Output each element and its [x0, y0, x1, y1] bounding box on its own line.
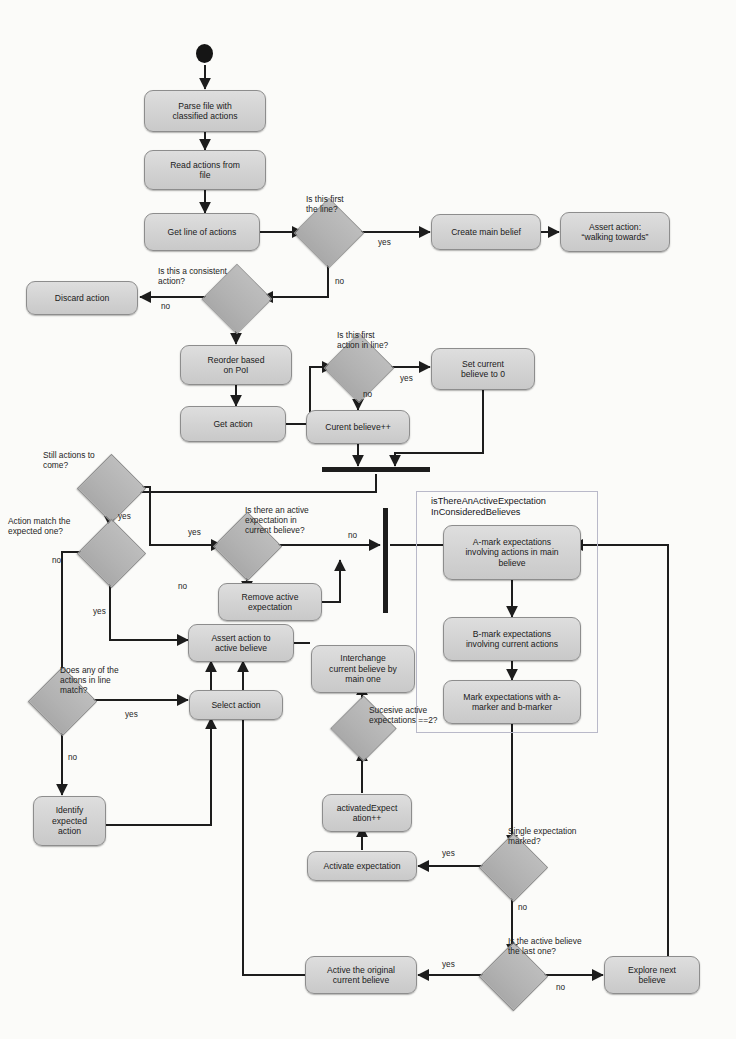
edge-label-action-match-no: no	[52, 556, 61, 565]
node-label: Select action	[211, 700, 260, 711]
node-get-line-of-actions[interactable]: Get line of actions	[144, 213, 260, 251]
node-read-actions[interactable]: Read actions from file	[144, 150, 266, 190]
edge-label-consistent-no: no	[161, 302, 170, 311]
node-identify-expected-action[interactable]: Identify expected action	[33, 796, 106, 846]
edge-label-still-actions-yes: yes	[118, 512, 131, 521]
node-label: Curent believe++	[325, 422, 390, 433]
decision-label-is-the-active-believe-the-last-one: Is the active believe the last one?	[508, 936, 582, 956]
node-label: Get line of actions	[168, 227, 237, 238]
node-label: Assert action: “walking towards”	[582, 222, 649, 243]
decision-single-expectation-marked[interactable]	[489, 843, 536, 890]
node-activated-expectation-increment[interactable]: activatedExpect ation++	[322, 794, 412, 832]
node-label: Parse file with classified actions	[173, 101, 238, 122]
node-assert-action-to-active-believe[interactable]: Assert action to active believe	[188, 624, 294, 662]
node-create-main-belief[interactable]: Create main belief	[431, 214, 541, 250]
node-label: Active the original current believe	[327, 965, 395, 986]
node-get-action[interactable]: Get action	[180, 406, 286, 442]
node-explore-next-believe[interactable]: Explore next believe	[604, 956, 700, 994]
edge-label-single-exp-no: no	[518, 903, 527, 912]
node-activate-expectation[interactable]: Activate expectation	[307, 851, 417, 881]
node-label: A-mark expectations involving actions in…	[465, 537, 558, 569]
edge-label-action-match-yes: yes	[93, 607, 106, 616]
decision-label-action-match-the-expected-one: Action match the expected one?	[8, 516, 70, 536]
edge-label-any-match-yes: yes	[125, 710, 138, 719]
node-label: activatedExpect ation++	[337, 803, 398, 824]
decision-is-the-active-believe-the-last-one[interactable]	[489, 952, 536, 999]
edge-label-single-exp-yes: yes	[442, 849, 455, 858]
decision-label-does-any-of-the-actions-match: Does any of the actions in line match?	[60, 665, 119, 696]
node-label: Mark expectations with a- marker and b-m…	[463, 692, 560, 713]
node-b-mark-expectations[interactable]: B-mark expectations involving current ac…	[443, 617, 581, 661]
decision-label-is-this-first-the-line: Is this first the line?	[306, 194, 344, 214]
join-bar-horizontal	[322, 467, 430, 472]
node-label: Identify expected action	[52, 805, 87, 837]
node-label: Create main belief	[451, 227, 521, 238]
node-label: B-mark expectations involving current ac…	[466, 629, 558, 650]
decision-label-single-expectation-marked: Single expectation marked?	[508, 826, 576, 846]
flowchart-canvas: isThereAnActiveExpectation InConsideredB…	[0, 0, 736, 1039]
decision-action-match-the-expected-one[interactable]	[87, 529, 134, 576]
join-bar-vertical	[383, 508, 388, 613]
node-label: Remove active expectation	[242, 592, 299, 613]
edge-label-last-believe-yes: yes	[442, 960, 455, 969]
node-mark-expectations-a-b[interactable]: Mark expectations with a- marker and b-m…	[443, 680, 581, 724]
start-node	[196, 44, 213, 63]
node-select-action[interactable]: Select action	[189, 690, 283, 720]
decision-label-still-actions-to-come: Still actions to come?	[43, 450, 95, 470]
decision-label-is-there-an-active-expectation: Is there an active expectation in curren…	[245, 505, 309, 536]
node-remove-active-expectation[interactable]: Remove active expectation	[218, 583, 322, 621]
node-label: Set current believe to 0	[461, 359, 505, 380]
node-set-current-believe-to-0[interactable]: Set current believe to 0	[431, 348, 535, 390]
decision-is-this-first-the-line[interactable]	[304, 208, 352, 256]
edge-label-first-action-no: no	[363, 390, 372, 399]
decision-label-sucesive-active-expectations: Sucesive active expectations ==2?	[369, 705, 437, 725]
node-label: Read actions from file	[170, 160, 240, 181]
node-label: Get action	[213, 419, 252, 430]
node-active-the-original-current-believe[interactable]: Active the original current believe	[305, 956, 417, 994]
node-label: Interchange current believe by main one	[329, 653, 397, 685]
node-current-believe-increment[interactable]: Curent believe++	[306, 410, 410, 444]
node-assert-action-walking[interactable]: Assert action: “walking towards”	[560, 212, 670, 252]
edge-label-first-line-yes: yes	[378, 238, 391, 247]
edge-label-last-believe-no: no	[556, 983, 565, 992]
subprocess-group-title: isThereAnActiveExpectation InConsideredB…	[431, 496, 601, 519]
edge-label-active-exp-no: no	[348, 531, 357, 540]
decision-label-is-this-first-action-in-line: Is this first action in line?	[337, 330, 388, 350]
node-label: Discard action	[55, 293, 109, 304]
node-discard-action[interactable]: Discard action	[26, 281, 138, 315]
node-interchange-current-believe[interactable]: Interchange current believe by main one	[311, 645, 415, 693]
node-label: Explore next believe	[628, 965, 676, 986]
node-reorder-based-on-poi[interactable]: Reorder based on PoI	[180, 345, 292, 385]
node-a-mark-expectations[interactable]: A-mark expectations involving actions in…	[443, 525, 581, 580]
decision-label-is-this-a-consistent-action: Is this a consistent action?	[158, 266, 227, 286]
edge-label-active-exp-no-2: no	[178, 582, 187, 591]
edge-label-first-line-no: no	[335, 277, 344, 286]
node-parse-file[interactable]: Parse file with classified actions	[144, 90, 266, 132]
node-label: Reorder based on PoI	[208, 355, 265, 376]
edge-label-any-match-no: no	[68, 753, 77, 762]
decision-still-actions-to-come[interactable]	[87, 464, 134, 511]
node-label: Activate expectation	[324, 861, 401, 872]
edge-label-first-action-yes: yes	[400, 374, 413, 383]
node-label: Assert action to active believe	[211, 633, 270, 654]
edge-label-still-actions-yes-2: yes	[188, 528, 201, 537]
